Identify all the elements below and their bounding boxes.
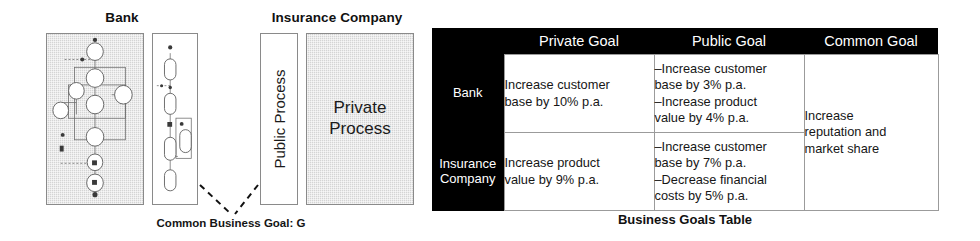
cell-common-goal: Increase reputation and market share xyxy=(804,55,938,211)
column-header-public-goal: Public Goal xyxy=(654,28,804,55)
row-header-insurance-company: Insurance Company xyxy=(432,133,504,211)
common-goal-connectors xyxy=(0,0,425,241)
table-row: Bank Increase customer base by 10% p.a. … xyxy=(432,55,938,133)
common-business-goal-label: Common Business Goal: G xyxy=(106,217,356,229)
table-header-row: Private Goal Public Goal Common Goal xyxy=(432,28,938,55)
row-header-bank: Bank xyxy=(432,55,504,133)
business-goals-table: Private Goal Public Goal Common Goal Ban… xyxy=(432,28,939,211)
table-corner-header xyxy=(432,28,504,55)
business-goals-table-panel: Private Goal Public Goal Common Goal Ban… xyxy=(432,28,938,211)
cell-bank-private-goal: Increase customer base by 10% p.a. xyxy=(504,55,654,133)
cell-bank-public-goal: –Increase customer base by 3% p.a. –Incr… xyxy=(654,55,804,133)
cell-insurance-private-goal: Increase product value by 9% p.a. xyxy=(504,133,654,211)
table-caption: Business Goals Table xyxy=(432,212,938,227)
column-header-private-goal: Private Goal xyxy=(504,28,654,55)
process-diagram-panel: Bank Insurance Company xyxy=(0,0,425,241)
cell-insurance-public-goal: –Increase customer base by 7% p.a. –Decr… xyxy=(654,133,804,211)
column-header-common-goal: Common Goal xyxy=(804,28,938,55)
